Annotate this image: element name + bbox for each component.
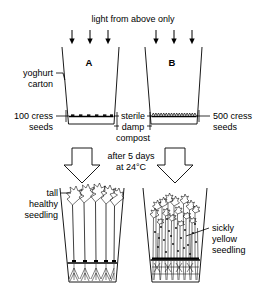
light-arrows-group [69,30,194,44]
incubation-temperature-label: at 24°C [116,162,147,172]
healthy-roots-group [69,264,114,281]
light-source-label: light from above only [91,14,175,24]
right-seed-count-label-line2: seeds [213,122,238,132]
light-arrow-icon-6 [189,30,194,44]
compost-label-line2: damp [122,122,145,132]
sickly-seedling-label-line2: yellow [212,234,238,244]
incubation-duration-label: after 5 days [107,151,155,161]
light-arrow-icon-1 [69,30,74,44]
healthy-seedlings-group [67,183,125,262]
light-arrow-icon-4 [153,30,158,44]
sickly-roots-group [152,261,199,280]
carton-a-letter: A [86,57,93,68]
healthy-seedling-label-line3: seedling [24,210,58,220]
sickly-seedling-label-line3: seedling [212,245,246,255]
germination-diagram: light from above only [0,0,266,297]
light-arrow-icon-5 [171,30,176,44]
yoghurt-carton-label-line1: yoghurt [23,68,54,78]
carton-b-bottom-seed-layer [152,258,199,260]
yoghurt-carton-label-line2: carton [28,79,53,89]
sickly-seedlings-group [150,193,200,259]
carton-b-letter: B [169,57,176,68]
compost-label-line1: sterile [121,111,145,121]
right-seed-count-label-line1: 500 cress [213,111,253,121]
left-seed-count-label-line2: seeds [29,122,54,132]
compost-label-line3: compost [116,133,151,143]
diagram-canvas: light from above only [0,0,266,297]
sickly-seedling-label-line1: sickly [212,223,234,233]
left-seed-count-label-line1: 100 cress [14,111,54,121]
carton-b-seed-layer [152,113,197,117]
down-block-arrow-right-icon [157,148,193,183]
light-arrow-icon-3 [105,30,110,44]
carton-a-seed-layer [69,114,114,116]
healthy-seedling-label-line1: tall [46,188,58,198]
healthy-seedling-label-line2: healthy [29,199,59,209]
light-arrow-icon-2 [87,30,92,44]
yoghurt-carton-leader-line [56,73,65,80]
down-block-arrow-left-icon [64,148,100,183]
